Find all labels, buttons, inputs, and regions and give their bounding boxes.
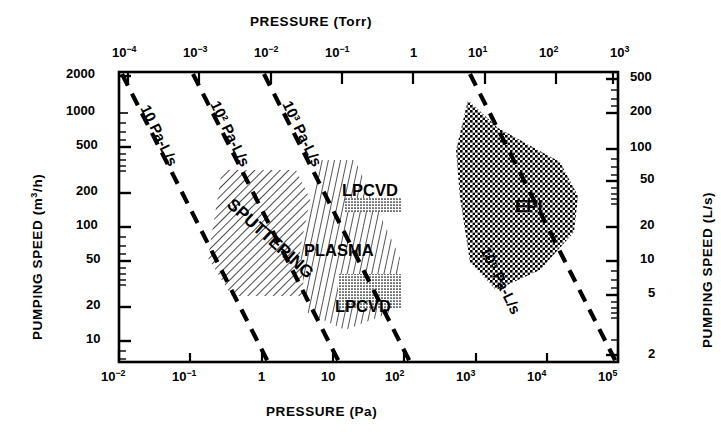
throughput-label-1e3: 10³ Pa-L/s xyxy=(279,98,325,169)
region-lpcvd-upper xyxy=(345,198,401,212)
plot-area: 10 Pa-L/s 10² Pa-L/s 10³ Pa-L/s 10⁵ Pa-L… xyxy=(0,0,721,444)
throughput-label-1e1: 10 Pa-L/s xyxy=(137,102,181,169)
figure-root: PRESSURE (Torr) 10−4 10−3 10−2 10−1 1 10… xyxy=(0,0,721,444)
region-label-epi: EPI xyxy=(515,197,542,216)
region-epi xyxy=(456,100,578,290)
right-ticks xyxy=(606,79,618,355)
bottom-ticks xyxy=(119,350,618,362)
region-label-lpcvd-upper: LPCVD xyxy=(342,181,398,199)
region-label-plasma: PLASMA xyxy=(304,241,374,259)
region-label-lpcvd-lower: LPCVD xyxy=(335,297,391,315)
top-ticks xyxy=(128,72,613,84)
throughput-label-1e2: 10² Pa-L/s xyxy=(207,98,253,169)
left-ticks xyxy=(119,76,131,359)
